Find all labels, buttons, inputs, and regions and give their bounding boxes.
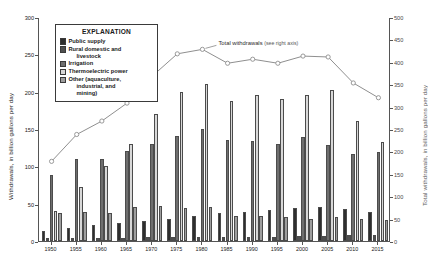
legend-title: EXPLANATION <box>60 28 153 35</box>
bar <box>184 208 188 241</box>
legend-item-label: Irrigation <box>69 60 94 67</box>
bar <box>154 114 158 241</box>
bar-group <box>192 18 212 241</box>
bar <box>117 223 121 241</box>
y-tick-mark-right <box>390 175 393 176</box>
bar <box>385 220 389 241</box>
y-tick-label-right: 50 <box>394 217 416 223</box>
x-tick-label: 2005 <box>321 246 333 252</box>
y-tick-label-left: 250 <box>12 52 34 58</box>
x-tick-mark <box>201 242 202 245</box>
bar <box>129 144 133 241</box>
bar <box>251 141 255 241</box>
bar <box>96 238 100 241</box>
x-tick-mark <box>76 242 77 245</box>
x-tick-mark <box>151 242 152 245</box>
y-tick-mark-left <box>35 242 38 243</box>
bar-group <box>343 18 363 241</box>
x-tick-mark <box>252 242 253 245</box>
bar-group <box>293 18 313 241</box>
y-tick-label-right: 400 <box>394 60 416 66</box>
bar <box>230 101 234 241</box>
bar <box>326 145 330 241</box>
legend-item-label: Thermoelectric power <box>69 68 128 75</box>
x-tick-label: 2015 <box>371 246 383 252</box>
y-tick-label-left: 100 <box>12 164 34 170</box>
legend-item: Public supply <box>60 38 153 45</box>
x-tick-label: 2000 <box>296 246 308 252</box>
bar <box>100 159 104 241</box>
legend-item-label: Public supply <box>69 38 106 45</box>
y-tick-mark-right <box>390 197 393 198</box>
legend-item-label-line2: industrial, and <box>69 83 121 90</box>
bar <box>377 152 381 241</box>
x-tick-mark <box>227 242 228 245</box>
bar <box>67 228 71 241</box>
y-tick-label-right: 500 <box>394 15 416 21</box>
bar <box>218 213 222 241</box>
y-tick-mark-right <box>390 242 393 243</box>
bar-group <box>167 18 187 241</box>
bar <box>268 210 272 241</box>
bar <box>309 219 313 241</box>
bar <box>180 92 184 241</box>
bar <box>330 90 334 241</box>
legend-item: Other (aquaculture,industrial, andmining… <box>60 76 153 96</box>
bar <box>104 166 108 241</box>
line-annotation-main: Total withdrawals <box>218 40 262 46</box>
bar <box>205 84 209 241</box>
y-tick-label-left: 0 <box>12 239 34 245</box>
bar <box>79 187 83 241</box>
legend-item-label: Other (aquaculture,industrial, andmining… <box>69 76 121 96</box>
x-tick-mark <box>377 242 378 245</box>
y-tick-label-left: 150 <box>12 127 34 133</box>
y-tick-mark-right <box>390 152 393 153</box>
bar <box>83 212 87 241</box>
x-tick-mark <box>277 242 278 245</box>
x-tick-label: 1990 <box>246 246 258 252</box>
water-withdrawals-chart: Withdrawals, in billion gallons per day … <box>0 0 428 262</box>
bar <box>133 207 137 241</box>
bar <box>222 237 226 241</box>
bar <box>318 207 322 241</box>
bar <box>192 216 196 241</box>
x-tick-mark <box>126 242 127 245</box>
bar <box>201 129 205 241</box>
bar <box>322 236 326 241</box>
bar <box>197 237 201 241</box>
bar <box>301 137 305 241</box>
bar <box>259 216 263 241</box>
bar-group <box>218 18 238 241</box>
line-annotation-sub: (see right axis) <box>264 40 298 46</box>
x-tick-label: 1950 <box>45 246 57 252</box>
line-annotation: Total withdrawals (see right axis) <box>218 40 298 46</box>
bar-group <box>368 18 388 241</box>
bar <box>356 121 360 241</box>
x-tick-mark <box>51 242 52 245</box>
bar <box>351 154 355 241</box>
y-tick-mark-right <box>390 40 393 41</box>
bar <box>146 237 150 241</box>
x-tick-label: 1965 <box>120 246 132 252</box>
legend-item: Rural domestic andlivestock <box>60 46 153 59</box>
bar <box>247 237 251 241</box>
legend-swatch <box>60 61 66 68</box>
x-tick-mark <box>302 242 303 245</box>
y-tick-label-right: 100 <box>394 194 416 200</box>
bar <box>272 237 276 241</box>
bar <box>175 136 179 241</box>
bar <box>297 236 301 241</box>
bar <box>46 238 50 241</box>
bar <box>171 237 175 241</box>
bar <box>381 142 385 241</box>
bar <box>71 238 75 241</box>
y-tick-label-left: 200 <box>12 90 34 96</box>
bar-group <box>243 18 263 241</box>
bar <box>280 99 284 241</box>
y-tick-label-right: 300 <box>394 105 416 111</box>
y-tick-mark-right <box>390 220 393 221</box>
y-tick-label-left: 50 <box>12 202 34 208</box>
bar <box>335 217 339 241</box>
y-tick-mark-right <box>390 18 393 19</box>
x-tick-mark <box>101 242 102 245</box>
